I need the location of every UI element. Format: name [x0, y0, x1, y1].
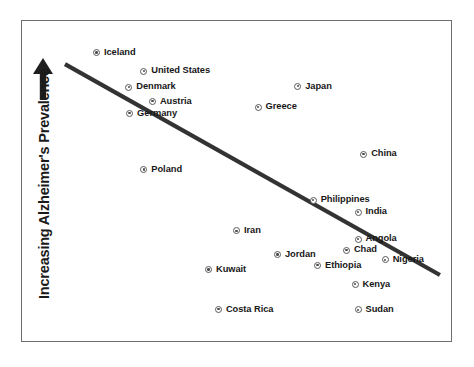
- point-marker-icon: [352, 281, 359, 288]
- data-point-label: Iceland: [104, 48, 136, 57]
- point-marker-icon: [140, 68, 147, 75]
- point-marker-icon: [314, 262, 321, 269]
- data-point-label: Kuwait: [216, 265, 246, 274]
- data-point-label: Nigeria: [393, 255, 424, 264]
- data-point-label: Greece: [266, 102, 297, 111]
- data-point-costa-rica[interactable]: Costa Rica: [215, 305, 274, 314]
- point-marker-icon: [149, 98, 156, 105]
- point-marker-icon: [294, 83, 301, 90]
- point-marker-icon: [215, 306, 222, 313]
- data-point-label: Philippines: [321, 195, 370, 204]
- point-marker-icon: [355, 306, 362, 313]
- data-point-chad[interactable]: Chad: [343, 245, 377, 254]
- y-axis-label: Increasing Alzheimer's Prevalence: [36, 69, 52, 299]
- data-point-iran[interactable]: Iran: [233, 226, 261, 235]
- data-point-united-states[interactable]: United States: [140, 66, 210, 75]
- data-point-angola[interactable]: Angola: [355, 234, 397, 243]
- data-point-nigeria[interactable]: Nigeria: [382, 255, 424, 264]
- data-point-greece[interactable]: Greece: [255, 102, 297, 111]
- data-point-label: Ethiopia: [325, 261, 361, 270]
- data-point-label: Iran: [244, 226, 261, 235]
- data-point-india[interactable]: India: [355, 207, 387, 216]
- data-point-label: Sudan: [366, 305, 394, 314]
- data-point-label: Austria: [160, 97, 192, 106]
- data-point-label: India: [366, 207, 387, 216]
- data-point-kenya[interactable]: Kenya: [352, 280, 391, 289]
- data-point-sudan[interactable]: Sudan: [355, 305, 394, 314]
- data-point-poland[interactable]: Poland: [140, 165, 182, 174]
- data-point-china[interactable]: China: [360, 149, 397, 158]
- data-point-label: Japan: [305, 82, 332, 91]
- point-marker-icon: [355, 209, 362, 216]
- data-point-label: Chad: [354, 245, 377, 254]
- point-marker-icon: [274, 251, 281, 258]
- data-point-kuwait[interactable]: Kuwait: [205, 265, 246, 274]
- y-axis-group: Increasing Alzheimer's Prevalence: [26, 58, 60, 326]
- data-point-label: Denmark: [136, 82, 175, 91]
- data-point-label: Costa Rica: [226, 305, 274, 314]
- point-marker-icon: [140, 166, 147, 173]
- point-marker-icon: [310, 197, 317, 204]
- point-marker-icon: [355, 236, 362, 243]
- data-point-label: Jordan: [285, 250, 316, 259]
- point-marker-icon: [125, 84, 132, 91]
- data-point-denmark[interactable]: Denmark: [125, 82, 175, 91]
- point-marker-icon: [233, 227, 240, 234]
- scatter-plot-figure: Increasing Alzheimer's Prevalence Icelan…: [0, 0, 474, 367]
- data-point-ethiopia[interactable]: Ethiopia: [314, 261, 361, 270]
- data-point-japan[interactable]: Japan: [294, 82, 332, 91]
- data-point-label: Germany: [137, 109, 177, 118]
- data-point-austria[interactable]: Austria: [149, 97, 192, 106]
- point-marker-icon: [205, 266, 212, 273]
- data-point-label: Angola: [366, 234, 397, 243]
- data-point-label: Kenya: [363, 280, 391, 289]
- point-marker-icon: [343, 247, 350, 254]
- data-point-label: United States: [151, 66, 210, 75]
- point-marker-icon: [382, 256, 389, 263]
- data-point-jordan[interactable]: Jordan: [274, 250, 316, 259]
- point-marker-icon: [360, 151, 367, 158]
- data-point-germany[interactable]: Germany: [126, 109, 177, 118]
- point-marker-icon: [255, 104, 262, 111]
- data-point-label: China: [371, 149, 397, 158]
- point-marker-icon: [93, 49, 100, 56]
- data-point-label: Poland: [151, 165, 182, 174]
- plot-frame: [21, 20, 452, 342]
- data-point-iceland[interactable]: Iceland: [93, 48, 136, 57]
- data-point-philippines[interactable]: Philippines: [310, 195, 370, 204]
- point-marker-icon: [126, 110, 133, 117]
